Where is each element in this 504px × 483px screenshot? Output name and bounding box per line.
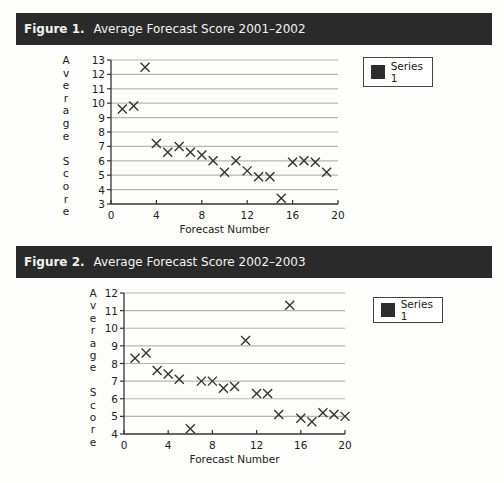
data-point-x-marker <box>307 417 316 426</box>
x-axis-title: Forecast Number <box>190 453 281 465</box>
data-point-x-marker <box>219 384 228 393</box>
y-tick-label: 5 <box>111 410 118 422</box>
data-point-x-marker <box>241 336 250 345</box>
data-point-x-marker <box>274 410 283 419</box>
y-axis-title-letter: e <box>90 436 96 448</box>
y-axis-title-letter: c <box>90 399 96 411</box>
y-tick-label: 12 <box>105 287 118 299</box>
data-point-x-marker <box>164 370 173 379</box>
data-point-x-marker <box>296 414 305 423</box>
y-tick-label: 7 <box>111 375 118 387</box>
figure-2-legend: Series 1 <box>373 297 443 323</box>
x-tick-label: 16 <box>294 439 308 451</box>
data-point-x-marker <box>285 301 294 310</box>
x-tick-label: 4 <box>165 439 172 451</box>
y-axis-title-letter: r <box>91 423 96 435</box>
legend-label: Series 1 <box>401 298 442 322</box>
y-axis-title-letter: e <box>90 361 96 373</box>
legend-swatch <box>381 303 395 317</box>
y-axis-title-letter: e <box>90 312 96 324</box>
y-tick-label: 4 <box>111 428 118 440</box>
y-tick-label: 6 <box>111 393 118 405</box>
y-axis-title-letter: o <box>90 411 96 423</box>
x-tick-label: 8 <box>209 439 216 451</box>
y-axis-title-letter: g <box>90 349 97 361</box>
x-tick-label: 12 <box>250 439 263 451</box>
data-point-x-marker <box>131 354 140 363</box>
y-axis-title-letter: A <box>89 287 97 299</box>
data-point-x-marker <box>329 410 338 419</box>
y-axis-title-letter: a <box>90 337 96 349</box>
data-point-x-marker <box>153 366 162 375</box>
x-tick-label: 0 <box>121 439 128 451</box>
data-point-x-marker <box>252 389 261 398</box>
y-tick-label: 10 <box>105 322 118 334</box>
y-tick-label: 8 <box>111 358 118 370</box>
data-point-x-marker <box>186 424 195 433</box>
y-tick-label: 9 <box>111 340 118 352</box>
y-axis-title-letter: v <box>90 299 96 311</box>
data-point-x-marker <box>175 375 184 384</box>
y-tick-label: 11 <box>105 305 118 317</box>
data-point-x-marker <box>263 389 272 398</box>
y-axis-title-letter: S <box>90 386 97 398</box>
x-tick-label: 20 <box>338 439 351 451</box>
data-point-x-marker <box>230 382 239 391</box>
figure-2-chart: 456789101112048121620Forecast NumberAver… <box>0 0 504 483</box>
y-axis-title-letter: r <box>91 324 96 336</box>
data-point-x-marker <box>142 348 151 357</box>
